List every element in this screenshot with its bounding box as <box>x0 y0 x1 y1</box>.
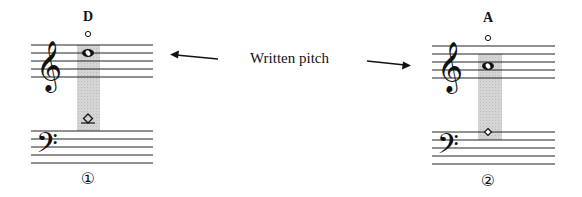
treble-clef-icon: 𝄞 <box>36 39 62 93</box>
harmonic-circle-icon <box>85 31 90 36</box>
arrow-left-icon <box>170 51 218 60</box>
arrow-right-icon <box>367 61 411 70</box>
harmonic-circle-icon <box>485 35 490 40</box>
example-number-1: ① <box>81 169 95 188</box>
diagram-canvas: 𝄞 𝄢 𝄞 𝄢 <box>0 0 582 197</box>
caption-written-pitch: Written pitch <box>250 50 329 67</box>
note-name-2: A <box>483 10 493 26</box>
treble-clef-icon: 𝄞 <box>437 40 463 94</box>
example-2: 𝄞 𝄢 <box>432 35 555 167</box>
bass-clef-icon: 𝄢 <box>36 126 58 166</box>
bass-clef-icon: 𝄢 <box>437 127 459 167</box>
range-highlight <box>77 45 100 131</box>
example-number-2: ② <box>481 171 495 190</box>
note-name-1: D <box>83 9 93 25</box>
example-1: 𝄞 𝄢 <box>31 31 153 166</box>
